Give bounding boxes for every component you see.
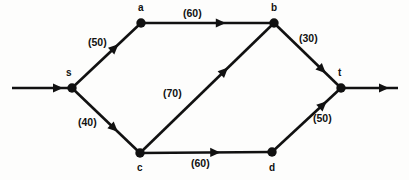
- flow-graph-canvas: (50)(60)(30)(40)(70)(60)(50)sabcdt: [0, 0, 409, 180]
- node-label-c: c: [137, 162, 143, 173]
- node-label-d: d: [269, 162, 275, 173]
- source-inflow-arrowhead: [53, 83, 63, 92]
- node-label-a: a: [138, 2, 144, 13]
- edge-capacity-label-b-t: (30): [299, 32, 318, 44]
- node-label-t: t: [338, 67, 342, 78]
- node-c[interactable]: [135, 148, 144, 157]
- node-a[interactable]: [136, 18, 145, 27]
- edge-a-b-arrowhead: [216, 18, 226, 27]
- edge-s-a: [72, 23, 141, 88]
- edge-c-d-arrowhead: [210, 148, 220, 157]
- edge-capacity-label-c-b: (70): [163, 87, 182, 99]
- node-label-s: s: [66, 67, 72, 78]
- node-d[interactable]: [267, 147, 276, 156]
- edge-capacity-label-c-d: (60): [191, 157, 210, 169]
- edge-capacity-label-s-a: (50): [88, 36, 107, 48]
- network-flow-diagram: (50)(60)(30)(40)(70)(60)(50)sabcdt: [0, 0, 409, 180]
- node-b[interactable]: [269, 18, 278, 27]
- node-s[interactable]: [67, 83, 76, 92]
- edge-capacity-label-d-t: (50): [313, 112, 332, 124]
- edge-capacity-label-s-c: (40): [78, 116, 97, 128]
- sink-outflow-arrowhead: [379, 83, 389, 92]
- edge-capacity-label-a-b: (60): [183, 7, 202, 19]
- edge-c-b: [140, 23, 274, 153]
- node-label-b: b: [271, 2, 277, 13]
- edge-c-d: [140, 152, 272, 153]
- node-t[interactable]: [336, 83, 345, 92]
